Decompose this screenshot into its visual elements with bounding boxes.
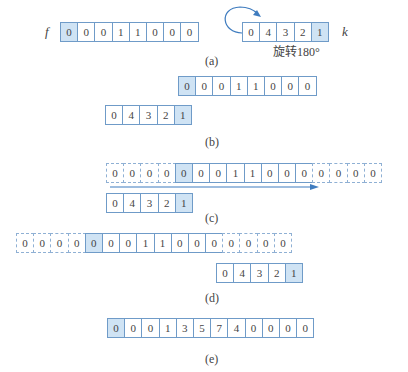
array-cell: 0 [329, 163, 347, 183]
array-cell: 2 [294, 22, 312, 42]
array-cell: 0 [261, 163, 279, 183]
array-cell: 0 [188, 233, 206, 253]
array-cell: 0 [278, 163, 296, 183]
panel-c-f-padded-array: 0000000110000000 [106, 163, 382, 183]
array-cell: 0 [239, 233, 257, 253]
array-cell: 0 [209, 163, 227, 183]
array-cell: 2 [268, 263, 286, 283]
array-cell: 0 [171, 233, 189, 253]
array-cell: 4 [122, 105, 140, 125]
array-cell: 4 [123, 193, 141, 213]
array-cell: 0 [106, 193, 124, 213]
array-cell: 1 [226, 163, 244, 183]
array-cell: 0 [216, 263, 234, 283]
array-cell: 1 [244, 163, 262, 183]
caption-a: (a) [205, 54, 218, 69]
array-cell: 0 [68, 233, 86, 253]
array-cell: 1 [175, 193, 193, 213]
rotate-arrow-icon [0, 0, 408, 372]
caption-b: (b) [205, 135, 219, 150]
array-cell: 0 [222, 233, 240, 253]
array-cell: 3 [139, 105, 157, 125]
caption-c: (c) [205, 211, 218, 226]
rotate-text: 旋转180° [273, 42, 320, 60]
array-cell: 4 [233, 263, 251, 283]
array-cell: 5 [193, 318, 211, 338]
array-cell: 0 [296, 318, 314, 338]
array-cell: 0 [105, 105, 123, 125]
array-cell: 1 [230, 76, 248, 96]
array-cell: 0 [140, 163, 158, 183]
panel-e-result-array: 000135740000 [107, 318, 314, 338]
caption-e: (e) [205, 352, 218, 367]
array-cell: 4 [227, 318, 245, 338]
panel-d-f-padded-array: 0000000110000000 [16, 233, 292, 253]
array-cell: 0 [50, 233, 68, 253]
caption-d: (d) [205, 291, 219, 306]
panel-c-k-array: 04321 [106, 193, 193, 213]
array-cell: 0 [347, 163, 365, 183]
array-cell: 0 [158, 163, 176, 183]
array-cell: 0 [33, 233, 51, 253]
array-cell: 0 [295, 163, 313, 183]
panel-d-k-array: 04321 [216, 263, 303, 283]
array-cell: 3 [276, 22, 294, 42]
array-cell: 0 [195, 76, 213, 96]
array-cell: 0 [85, 233, 103, 253]
array-cell: 0 [262, 318, 280, 338]
array-cell: 2 [158, 193, 176, 213]
panel-a-k-array: 04321 [242, 22, 329, 42]
array-cell: 0 [364, 163, 382, 183]
array-cell: 0 [205, 233, 223, 253]
array-cell: 0 [264, 76, 282, 96]
array-cell: 0 [281, 76, 299, 96]
array-cell: 1 [154, 233, 172, 253]
array-cell: 3 [176, 318, 194, 338]
array-cell: 0 [16, 233, 34, 253]
array-cell: 1 [285, 263, 303, 283]
array-cell: 0 [119, 233, 137, 253]
array-cell: 0 [242, 22, 260, 42]
array-cell: 0 [107, 318, 125, 338]
array-cell: 3 [140, 193, 158, 213]
array-cell: 1 [136, 233, 154, 253]
array-cell: 0 [274, 233, 292, 253]
array-cell: 1 [247, 76, 265, 96]
array-cell: 0 [212, 76, 230, 96]
panel-b-f-array: 00011000 [178, 76, 317, 96]
array-cell: 0 [106, 163, 124, 183]
array-cell: 0 [312, 163, 330, 183]
array-cell: 0 [175, 163, 193, 183]
array-cell: 0 [123, 163, 141, 183]
array-cell: 0 [192, 163, 210, 183]
array-cell: 0 [257, 233, 275, 253]
array-cell: 3 [250, 263, 268, 283]
array-cell: 1 [311, 22, 329, 42]
array-cell: 4 [259, 22, 277, 42]
array-cell: 7 [210, 318, 228, 338]
array-cell: 1 [159, 318, 177, 338]
array-cell: 0 [298, 76, 316, 96]
array-cell: 0 [102, 233, 120, 253]
array-cell: 0 [124, 318, 142, 338]
array-cell: 0 [178, 76, 196, 96]
array-cell: 1 [174, 105, 192, 125]
array-cell: 2 [157, 105, 175, 125]
array-cell: 0 [279, 318, 297, 338]
k-label: k [342, 24, 348, 40]
array-cell: 0 [245, 318, 263, 338]
array-cell: 0 [141, 318, 159, 338]
panel-b-k-array: 04321 [105, 105, 192, 125]
